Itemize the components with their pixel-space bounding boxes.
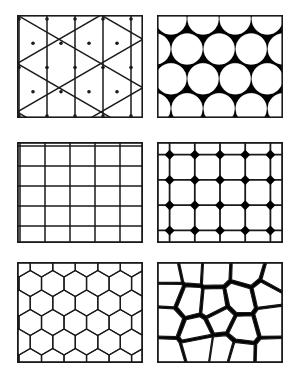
tiling-cell-group <box>157 262 283 363</box>
square-grid-diamonds-svg <box>157 142 283 243</box>
square-grid-svg <box>17 142 143 243</box>
panel-irregular-pentagon-tiling <box>157 262 283 363</box>
close-packed-circles-svg <box>157 15 283 118</box>
panel-square-grid-with-diamonds <box>157 142 283 243</box>
panel-background <box>17 142 143 243</box>
triangular-lattice-svg <box>17 15 143 118</box>
panel-close-packed-circles <box>157 15 283 118</box>
irregular-tiling-svg <box>157 262 283 363</box>
panel-square-grid <box>17 142 143 243</box>
tiling-patterns-figure <box>0 0 296 375</box>
panel-triangular-lattice <box>17 15 143 118</box>
panel-honeycomb-hexagonal <box>17 262 143 363</box>
panel-background <box>17 15 143 118</box>
honeycomb-svg <box>17 262 143 363</box>
